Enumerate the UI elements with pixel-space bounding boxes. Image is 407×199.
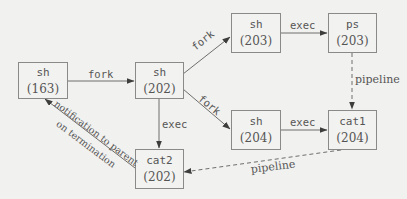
node-command: sh <box>36 65 49 81</box>
diagram-canvas: sh (163) sh (202) sh (203) ps (203) sh (… <box>0 0 407 199</box>
node-pid: (163) <box>27 81 59 97</box>
node-cat2-202: cat2 (202) <box>135 149 184 189</box>
node-ps-203: ps (203) <box>328 13 377 53</box>
node-sh-204: sh (204) <box>231 110 281 150</box>
node-pid: (202) <box>143 81 175 97</box>
node-command: cat2 <box>146 153 173 169</box>
label-exec-203: exec <box>290 19 315 31</box>
node-command: cat1 <box>339 114 366 130</box>
label-exec-202: exec <box>162 118 187 130</box>
node-sh-203: sh (203) <box>231 13 281 53</box>
node-pid: (202) <box>143 169 175 185</box>
label-exec-204: exec <box>290 116 315 128</box>
label-pipeline-ps-cat1: pipeline <box>355 73 400 86</box>
node-sh-202: sh (202) <box>135 62 184 99</box>
node-pid: (203) <box>240 33 272 49</box>
node-command: sh <box>249 17 262 33</box>
node-pid: (204) <box>240 130 272 146</box>
node-pid: (203) <box>336 33 368 49</box>
node-command: sh <box>153 65 166 81</box>
label-fork-163-202: fork <box>88 68 113 80</box>
node-command: sh <box>249 114 262 130</box>
node-command: ps <box>346 17 359 33</box>
node-sh-163: sh (163) <box>18 62 68 99</box>
node-pid: (204) <box>336 130 368 146</box>
node-cat1-204: cat1 (204) <box>328 110 377 150</box>
